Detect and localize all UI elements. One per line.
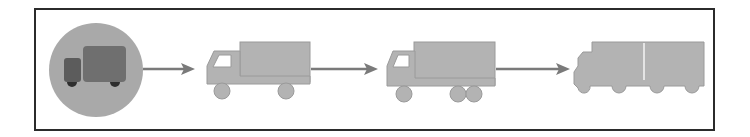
truck-wheel xyxy=(466,86,482,102)
truck-wheel xyxy=(214,83,230,99)
truck-cab xyxy=(64,58,81,82)
truck-progression-diagram xyxy=(0,0,750,137)
truck-wheel xyxy=(278,83,294,99)
arrow-right-icon xyxy=(496,63,570,75)
box-truck-icon xyxy=(207,42,310,99)
truck-wheel xyxy=(396,86,412,102)
delivery-truck-circle-icon xyxy=(49,23,143,117)
tandem-axle-truck-icon xyxy=(387,42,495,102)
road-train-body xyxy=(574,42,704,93)
truck-cargo-box xyxy=(83,46,126,82)
arrow-right-icon xyxy=(143,63,195,75)
road-train-icon xyxy=(574,42,704,93)
arrow-right-icon xyxy=(311,63,378,75)
truck-wheel xyxy=(450,86,466,102)
